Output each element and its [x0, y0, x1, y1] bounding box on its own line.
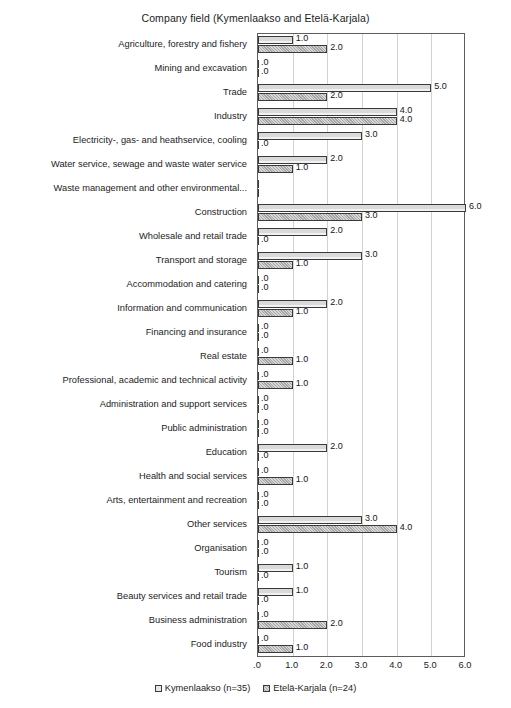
bar-value-label: 2.0	[330, 442, 343, 451]
bar-value-label: 1.0	[296, 586, 309, 595]
bar-kymenlaakso	[258, 36, 293, 44]
bar-row: .0.0	[258, 394, 464, 418]
bar-value-label: 2.0	[330, 154, 343, 163]
bar-row: .0.0	[258, 490, 464, 514]
bar-row: .01.0	[258, 466, 464, 490]
bar-row: .0.0	[258, 58, 464, 82]
bar-row: 1.02.0	[258, 34, 464, 58]
bar-value-label: 1.0	[296, 307, 309, 316]
bar-value-label: .0	[261, 67, 269, 76]
category-label: Beauty services and retail trade	[0, 591, 252, 602]
bar-row: 3.0.0	[258, 130, 464, 154]
bar-value-label: 3.0	[365, 250, 378, 259]
legend-item: Etelä-Karjala (n=24)	[263, 683, 356, 693]
category-label: Arts, entertainment and recreation	[0, 495, 252, 506]
x-tick-label: .0	[253, 660, 261, 671]
bar-row: 1.0.0	[258, 586, 464, 610]
category-label: Electricity-, gas- and heathservice, coo…	[0, 135, 252, 146]
bar-value-label: .0	[261, 571, 269, 580]
x-axis-ticks: .01.02.03.04.05.06.0	[257, 660, 465, 674]
category-label: Wholesale and retail trade	[0, 231, 252, 242]
bar-row: 2.0.0	[258, 226, 464, 250]
bar-etela_karjala	[258, 309, 293, 317]
bar-kymenlaakso	[258, 108, 397, 116]
bar-etela_karjala	[258, 261, 293, 269]
bar-etela_karjala	[258, 357, 293, 365]
category-label: Food industry	[0, 639, 252, 650]
bar-etela_karjala	[258, 117, 397, 125]
bar-value-label: 2.0	[330, 298, 343, 307]
bar-row: 5.02.0	[258, 82, 464, 106]
chart-title: Company field (Kymenlaakso and Etelä-Kar…	[0, 12, 511, 24]
x-tick-label: 1.0	[285, 660, 298, 671]
bar-value-label: 5.0	[434, 82, 447, 91]
bar-value-label: .0	[261, 283, 269, 292]
category-label: Information and communication	[0, 303, 252, 314]
bar-value-label: 4.0	[400, 523, 413, 532]
bar-value-label: 2.0	[330, 619, 343, 628]
bar-row: .02.0	[258, 610, 464, 634]
bar-value-label: .0	[261, 403, 269, 412]
bar-row: 3.04.0	[258, 514, 464, 538]
category-label: Real estate	[0, 351, 252, 362]
bar-kymenlaakso	[258, 516, 362, 524]
bar-kymenlaakso	[258, 204, 466, 212]
category-label: Tourism	[0, 567, 252, 578]
bar-value-label: 1.0	[296, 34, 309, 43]
category-label: Administration and support services	[0, 399, 252, 410]
category-label: Organisation	[0, 543, 252, 554]
bar-row: .01.0	[258, 346, 464, 370]
bar-value-label: .0	[261, 466, 269, 475]
category-label: Water service, sewage and waste water se…	[0, 159, 252, 170]
bar-row: 3.01.0	[258, 250, 464, 274]
category-label: Agriculture, forestry and fishery	[0, 39, 252, 50]
bar-etela_karjala	[258, 381, 293, 389]
bar-value-label: .0	[261, 451, 269, 460]
category-label: Other services	[0, 519, 252, 530]
category-label: Financing and insurance	[0, 327, 252, 338]
category-label: Construction	[0, 207, 252, 218]
legend-swatch-icon	[263, 685, 270, 692]
bar-row: 1.0.0	[258, 562, 464, 586]
bar-kymenlaakso	[258, 300, 327, 308]
bar-kymenlaakso	[258, 252, 362, 260]
bar-value-label: 1.0	[296, 562, 309, 571]
bar-etela_karjala	[258, 45, 327, 53]
bar-etela_karjala	[258, 525, 397, 533]
category-label: Education	[0, 447, 252, 458]
legend-label: Kymenlaakso (n=35)	[165, 683, 251, 693]
bar-row: 2.01.0	[258, 154, 464, 178]
bar-value-label: .0	[261, 331, 269, 340]
bar-value-label: .0	[261, 427, 269, 436]
bar-value-label: 3.0	[365, 211, 378, 220]
plot-area: 1.02.0.0.05.02.04.04.03.0.02.01.06.03.02…	[257, 33, 465, 657]
bar-row: .0.0	[258, 322, 464, 346]
bar-row: 4.04.0	[258, 106, 464, 130]
bar-row: .0.0	[258, 538, 464, 562]
category-label: Professional, academic and technical act…	[0, 375, 252, 386]
bar-row: .01.0	[258, 634, 464, 658]
x-tick-label: 3.0	[355, 660, 368, 671]
chart-legend: Kymenlaakso (n=35)Etelä-Karjala (n=24)	[0, 683, 511, 693]
category-label: Accommodation and catering	[0, 279, 252, 290]
bar-value-label: 2.0	[330, 43, 343, 52]
bar-row: 6.03.0	[258, 202, 464, 226]
bar-etela_karjala	[258, 645, 293, 653]
bar-value-label: .0	[261, 235, 269, 244]
bar-kymenlaakso	[258, 132, 362, 140]
legend-swatch-icon	[155, 685, 162, 692]
bar-value-label: .0	[261, 595, 269, 604]
bar-etela_karjala	[258, 213, 362, 221]
bar-row: .0.0	[258, 274, 464, 298]
bar-value-label: 1.0	[296, 163, 309, 172]
category-axis-labels: Agriculture, forestry and fisheryMining …	[0, 33, 252, 657]
bar-row: 2.0.0	[258, 442, 464, 466]
bar-value-label: 3.0	[365, 514, 378, 523]
bar-value-label: .0	[261, 370, 269, 379]
category-label: Trade	[0, 87, 252, 98]
bar-value-label: .0	[261, 610, 269, 619]
category-label: Health and social services	[0, 471, 252, 482]
category-label: Business administration	[0, 615, 252, 626]
category-label: Transport and storage	[0, 255, 252, 266]
x-tick-label: 6.0	[459, 660, 472, 671]
